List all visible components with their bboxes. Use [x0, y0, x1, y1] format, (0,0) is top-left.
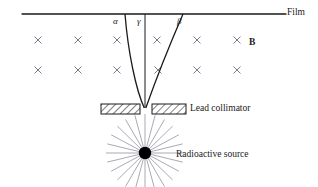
radioactive-source-label: Radioactive source	[176, 150, 249, 160]
field-x-mark	[114, 37, 121, 44]
diagram-canvas	[0, 0, 318, 187]
radioactive-source-dot	[139, 147, 151, 159]
field-x-mark	[35, 37, 42, 44]
lead-collimator-label: Lead collimator	[190, 104, 250, 114]
magnetic-field-label: B	[249, 38, 255, 48]
field-x-mark	[234, 37, 241, 44]
field-x-mark	[75, 67, 82, 74]
beta-ray-label: β	[177, 17, 181, 26]
field-x-mark	[194, 67, 201, 74]
gamma-ray-label: γ	[137, 17, 141, 26]
alpha-ray-label: α	[113, 17, 118, 26]
field-x-mark	[154, 37, 161, 44]
field-x-mark	[114, 67, 121, 74]
lead-collimator-block-right	[152, 104, 186, 114]
field-x-mark	[75, 37, 82, 44]
field-x-mark	[194, 37, 201, 44]
lead-collimator-block-left	[101, 104, 140, 114]
beta-ray-path	[146, 14, 183, 108]
film-label: Film	[287, 8, 305, 18]
field-x-mark	[35, 67, 42, 74]
magnetic-field-marks-row-2	[35, 67, 241, 74]
radiation-deflection-diagram: Film α γ β B Lead collimator Radioactive…	[0, 0, 318, 187]
magnetic-field-marks-row-1	[35, 37, 241, 44]
alpha-ray-path	[125, 14, 144, 108]
field-x-mark	[234, 67, 241, 74]
